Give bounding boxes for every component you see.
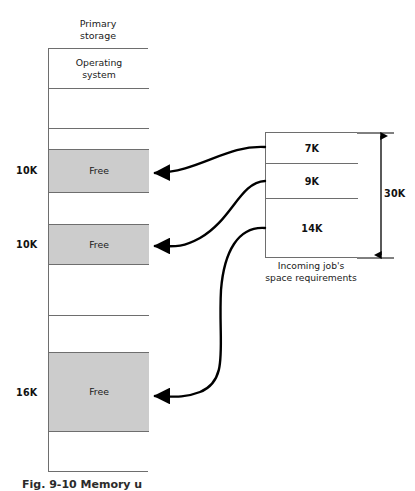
memory-block-operating-system: Operating system [49,49,149,89]
job-request-block-7k: 7K [266,133,358,164]
job-request-block-14k: 14K [266,199,358,257]
memory-block-label: Free [89,165,109,177]
memory-block-label: Free [89,386,109,398]
job-request-label: 7K [305,143,320,154]
memory-block-occupied-2 [49,129,149,150]
job-request-label: 14K [301,223,322,234]
size-label-free-10k-first: 10K [16,165,56,176]
job-request-block-9k: 9K [266,164,358,199]
memory-block-label: Operating system [76,57,122,80]
memory-block-occupied-1 [49,89,149,129]
memory-block-free-10k-first: Free [49,150,149,193]
memory-block-free-10k-second: Free [49,225,149,265]
size-label-free-16k: 16K [16,387,56,398]
arrow-7k-to-free-10k-first [155,147,265,173]
arrow-14k-to-free-16k [155,228,265,397]
memory-block-occupied-4 [49,265,149,316]
primary-storage-title: Primary storage [48,18,148,41]
total-size-label: 30K [384,188,405,199]
job-request-label: 9K [305,176,320,187]
memory-block-occupied-3 [49,193,149,225]
memory-block-occupied-6 [49,432,149,471]
primary-storage-column: Operating system Free Free Free [48,48,148,472]
size-label-free-10k-second: 10K [16,239,56,250]
incoming-job-caption: Incoming job's space requirements [255,260,367,283]
arrow-9k-to-free-10k-second [155,181,265,246]
memory-block-free-16k: Free [49,353,149,432]
incoming-job-box: 7K 9K 14K [265,132,357,258]
figure-caption: Fig. 9-10 Memory u [22,478,142,491]
memory-block-occupied-5 [49,316,149,353]
memory-block-label: Free [89,239,109,251]
